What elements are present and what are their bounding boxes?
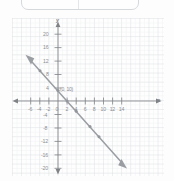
x-tick-label-10: 10 xyxy=(101,107,106,112)
x-tick-label-14: 14 xyxy=(119,107,124,112)
x-tick-label-neg6: -6 xyxy=(28,107,32,112)
y-tick-label-16: 16 xyxy=(43,45,48,50)
coordinate-plane-svg xyxy=(12,18,164,176)
y-tick-label-12: 12 xyxy=(43,59,48,64)
y-tick-label-neg4: -4 xyxy=(43,113,47,118)
y-intercept-annotation: (0, 10) xyxy=(60,87,73,92)
graph-screenshot: 20 16 12 8 4 -4 -8 -12 -16 -20 -6 -4 -2 … xyxy=(0,0,174,181)
x-tick-label-2: 2 xyxy=(66,107,69,112)
y-tick-label-4: 4 xyxy=(46,86,49,91)
x-axis-name-label: x xyxy=(157,98,160,103)
y-axis-name-label: y xyxy=(56,18,59,23)
y-tick-label-20: 20 xyxy=(43,32,48,37)
y-tick-label-neg20: -20 xyxy=(41,166,48,171)
x-tick-label-neg2: -2 xyxy=(46,107,50,112)
y-tick-label-neg8: -8 xyxy=(43,126,47,131)
x-tick-label-0: 0 xyxy=(56,107,59,112)
x-tick-label-6: 6 xyxy=(84,107,87,112)
coordinate-plane-panel: 20 16 12 8 4 -4 -8 -12 -16 -20 -6 -4 -2 … xyxy=(12,18,164,176)
y-tick-label-neg16: -16 xyxy=(41,153,48,158)
x-tick-label-neg4: -4 xyxy=(37,107,41,112)
x-tick-label-12: 12 xyxy=(110,107,115,112)
y-tick-label-neg12: -12 xyxy=(41,139,48,144)
major-gridlines xyxy=(12,18,164,176)
top-panel-divider xyxy=(78,0,79,9)
top-panel-box xyxy=(21,0,139,10)
x-tick-label-4: 4 xyxy=(75,107,78,112)
x-tick-label-8: 8 xyxy=(93,107,96,112)
y-tick-label-8: 8 xyxy=(46,72,49,77)
